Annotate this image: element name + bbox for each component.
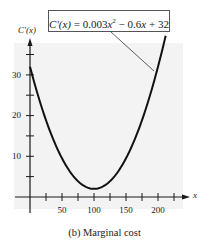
eq-mid: − 0.6 bbox=[116, 18, 141, 30]
eq-lhs: C'(x) bbox=[49, 18, 71, 30]
marginal-cost-curve bbox=[30, 36, 166, 189]
x-axis-arrow-icon bbox=[182, 195, 190, 200]
y-tick-label-10: 10 bbox=[5, 151, 21, 161]
x-tick-label-200: 200 bbox=[146, 205, 170, 215]
x-axis-title: x bbox=[193, 190, 197, 200]
y-tick-label-30: 30 bbox=[5, 70, 21, 80]
y-axis-title: C'(x) bbox=[18, 25, 36, 35]
annotation-leader-line bbox=[111, 32, 154, 71]
eq-tail: + 32 bbox=[146, 18, 169, 30]
y-axis-arrow-icon bbox=[28, 38, 33, 46]
figure-caption: (b) Marginal cost bbox=[0, 227, 209, 238]
eq-rhs-pre: = 0.003 bbox=[71, 18, 107, 30]
x-tick-label-50: 50 bbox=[50, 205, 74, 215]
equation-annotation-box: C'(x) = 0.003x2 − 0.6x + 32 bbox=[48, 10, 170, 32]
x-tick-label-100: 100 bbox=[82, 205, 106, 215]
y-tick-label-20: 20 bbox=[5, 110, 21, 120]
x-tick-label-150: 150 bbox=[114, 205, 138, 215]
